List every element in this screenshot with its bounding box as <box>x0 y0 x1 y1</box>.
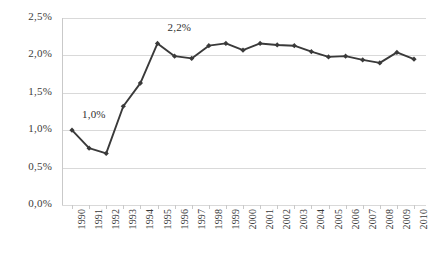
data-series <box>0 0 443 254</box>
data-point-marker <box>104 151 109 156</box>
data-point-marker <box>326 54 331 59</box>
series-markers <box>69 41 416 156</box>
line-chart: 0,0%0,5%1,0%1,5%2,0%2,5% 199019911992199… <box>0 0 443 254</box>
data-point-marker <box>309 49 314 54</box>
data-point-marker <box>223 41 228 46</box>
data-point-marker <box>343 54 348 59</box>
data-point-marker <box>258 41 263 46</box>
data-point-marker <box>360 57 365 62</box>
data-point-marker <box>411 57 416 62</box>
data-point-marker <box>275 42 280 47</box>
data-point-marker <box>292 43 297 48</box>
data-point-marker <box>240 48 245 53</box>
data-point-label: 1,0% <box>82 108 106 120</box>
data-point-label: 2,2% <box>168 21 192 33</box>
